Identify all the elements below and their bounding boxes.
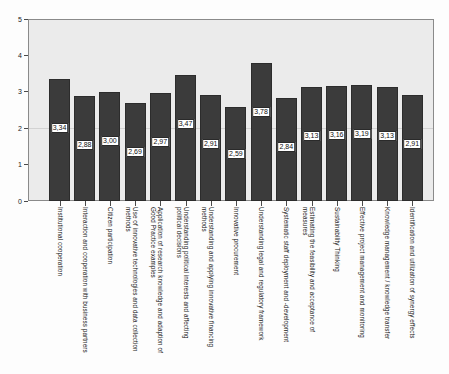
bar-group: 3,34 xyxy=(49,19,70,201)
x-axis-category-label: Interaction and cooperation with busines… xyxy=(81,207,88,357)
bars-layer: 3,342,883,002,692,973,472,912,593,782,84… xyxy=(28,19,434,201)
bar[interactable] xyxy=(150,93,171,201)
x-axis-category-label: Systematic staff deployment and -develop… xyxy=(283,207,290,357)
bar-value-label: 3,13 xyxy=(303,131,321,141)
bar-group: 3,19 xyxy=(351,19,372,201)
bar-value-label: 2,88 xyxy=(76,140,94,150)
x-axis-category-label: Identification and utilization of synerg… xyxy=(409,207,416,357)
bar[interactable] xyxy=(326,86,347,201)
bar-group: 3,16 xyxy=(326,19,347,201)
bar-value-label: 3,47 xyxy=(177,119,195,129)
chart-figure: 012345 3,342,883,002,692,973,472,912,593… xyxy=(0,0,449,374)
x-axis-tick xyxy=(261,201,262,206)
x-axis-tick xyxy=(362,201,363,206)
bar-value-label: 2,91 xyxy=(202,139,220,149)
bar-group: 2,97 xyxy=(150,19,171,201)
bar-value-label: 3,34 xyxy=(51,123,69,133)
bar[interactable] xyxy=(351,85,372,201)
bar[interactable] xyxy=(301,87,322,201)
bar-group: 2,59 xyxy=(225,19,246,201)
bar-value-label: 3,13 xyxy=(378,131,396,141)
x-axis-tick xyxy=(312,201,313,206)
x-axis-tick xyxy=(337,201,338,206)
x-axis-category-label: Knowledge management / knowledge transfe… xyxy=(384,207,391,357)
x-axis-category-label: Estimating the feasibility and acceptanc… xyxy=(301,207,314,357)
x-axis-tick xyxy=(412,201,413,206)
x-axis-labels: Institutional cooperationInteraction and… xyxy=(28,207,434,367)
x-axis-category-label: Sustainability Thinking xyxy=(333,207,340,357)
x-axis-category-label: Use of innovative technologies and data … xyxy=(125,207,138,357)
bar-value-label: 3,00 xyxy=(101,136,119,146)
x-axis-category-label: Understanding political interests and af… xyxy=(175,207,188,357)
bar-group: 2,88 xyxy=(74,19,95,201)
bar-group: 2,91 xyxy=(402,19,423,201)
y-axis: 012345 xyxy=(0,19,28,202)
bar-group: 3,13 xyxy=(377,19,398,201)
bar[interactable] xyxy=(175,75,196,201)
bar-group: 2,84 xyxy=(276,19,297,201)
x-axis-category-label: Citizen participation xyxy=(106,207,113,357)
x-axis-category-label: Understanding legal and regulatory frame… xyxy=(258,207,265,357)
bar-value-label: 3,78 xyxy=(252,107,270,117)
bar[interactable] xyxy=(49,79,70,201)
bar-value-label: 2,91 xyxy=(403,139,421,149)
x-axis-category-label: Innovative procurement xyxy=(232,207,239,357)
bar-value-label: 2,84 xyxy=(277,142,295,152)
x-axis-tick xyxy=(387,201,388,206)
bar-group: 2,69 xyxy=(125,19,146,201)
bar-value-label: 3,16 xyxy=(328,130,346,140)
bar-value-label: 2,59 xyxy=(227,149,245,159)
x-axis-tick xyxy=(211,201,212,206)
bar[interactable] xyxy=(251,63,272,201)
x-axis-tick xyxy=(60,201,61,206)
x-axis-category-label: Effective project management and monitor… xyxy=(358,207,365,357)
x-axis-category-label: Application of research knowledge and ad… xyxy=(150,207,163,357)
x-axis-tick xyxy=(110,201,111,206)
x-axis-category-label: Understanding and applying innovative fi… xyxy=(201,207,214,357)
bar-value-label: 3,19 xyxy=(353,129,371,139)
x-axis-category-label: Institutional cooperation xyxy=(56,207,63,357)
bar-value-label: 2,97 xyxy=(151,137,169,147)
bar[interactable] xyxy=(377,87,398,201)
bar-group: 2,91 xyxy=(200,19,221,201)
x-axis-tick xyxy=(236,201,237,206)
x-axis-tick xyxy=(135,201,136,206)
x-axis-tick xyxy=(186,201,187,206)
bar-value-label: 2,69 xyxy=(126,147,144,157)
bar-group: 3,00 xyxy=(99,19,120,201)
x-axis-tick xyxy=(85,201,86,206)
x-axis-tick xyxy=(160,201,161,206)
bar-group: 3,47 xyxy=(175,19,196,201)
bar[interactable] xyxy=(99,92,120,201)
x-axis-tick xyxy=(286,201,287,206)
bar-group: 3,78 xyxy=(251,19,272,201)
bar-group: 3,13 xyxy=(301,19,322,201)
